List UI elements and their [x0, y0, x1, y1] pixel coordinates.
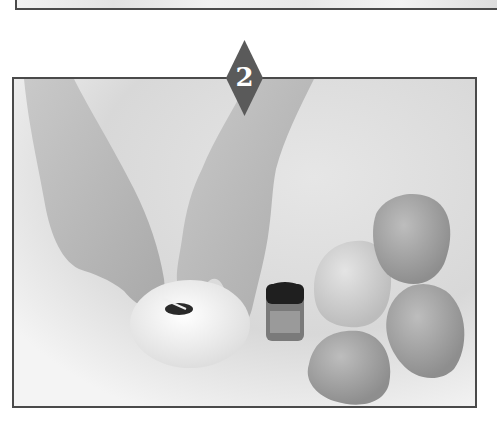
coloring-bottle [266, 282, 304, 341]
step-number: 2 [226, 62, 263, 92]
photo-illustration [14, 79, 475, 406]
white-dough-ball [130, 280, 250, 368]
step-photo [12, 77, 477, 408]
previous-photo-frame [15, 0, 497, 10]
dough-ball-2 [373, 194, 450, 284]
step-number-badge: 2 [226, 40, 263, 116]
